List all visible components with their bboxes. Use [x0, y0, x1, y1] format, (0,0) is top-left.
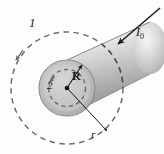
label-loop-1: 1 [29, 16, 36, 29]
label-current-subscript: 0 [140, 32, 144, 41]
axis-center-dot [65, 86, 70, 91]
figure-canvas [0, 0, 164, 154]
physics-figure: 1 2 R r I0 [0, 0, 164, 154]
label-radius-r: r [91, 129, 95, 140]
label-radius-R: R [72, 70, 81, 82]
label-loop-2: 2 [47, 80, 53, 91]
label-current: I0 [136, 26, 144, 41]
